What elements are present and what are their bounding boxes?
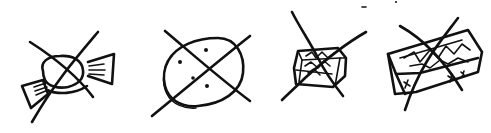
- small-chocolate-icon: [282, 12, 366, 100]
- cookie-icon: [152, 31, 250, 116]
- stray-dot: [395, 1, 397, 3]
- crossed-out-sweets-illustration: Wrapped candy (crossed out) Round cookie…: [0, 0, 491, 133]
- wrapped-candy-icon: [22, 32, 114, 122]
- chocolate-bar-icon: [388, 18, 482, 110]
